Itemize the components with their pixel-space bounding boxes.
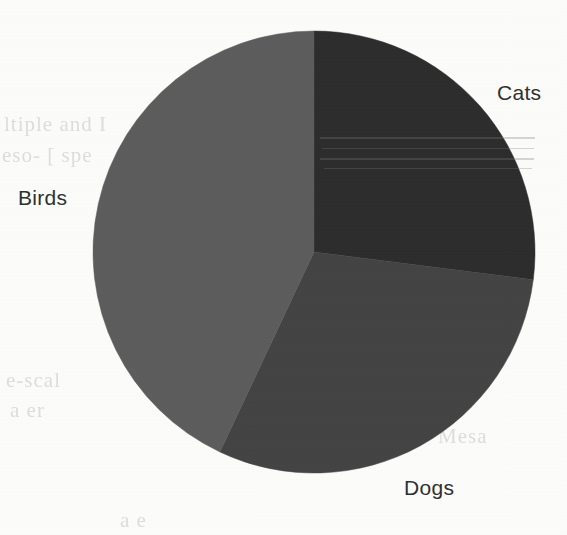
pie-slice-cats — [314, 31, 535, 280]
pie-label-birds: Birds — [18, 186, 67, 210]
pie-label-cats: Cats — [497, 81, 541, 105]
pie-slices-group — [93, 31, 535, 473]
pie-chart-figure: ltiple and I eso- [ spe lgrit as e-scal … — [0, 0, 567, 535]
pie-chart-svg — [0, 0, 567, 535]
pie-label-dogs: Dogs — [404, 476, 454, 500]
